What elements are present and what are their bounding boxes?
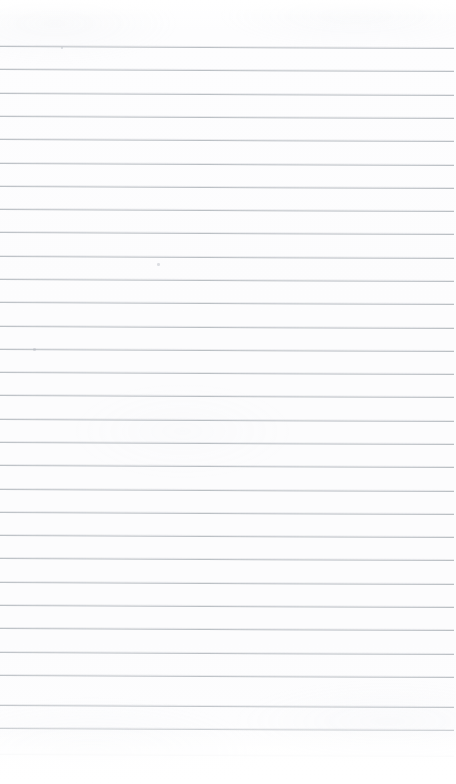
scan-speck [33, 348, 36, 351]
scan-speck [157, 263, 160, 266]
scanned-page [0, 0, 456, 784]
scan-speck [61, 47, 63, 49]
